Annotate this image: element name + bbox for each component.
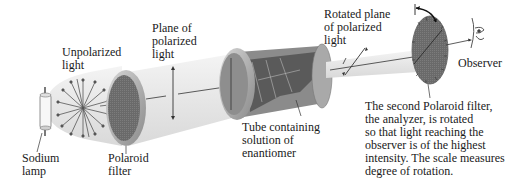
label-tube: Tube containing solution of enantiomer (242, 121, 320, 160)
outgoing-light (446, 39, 472, 46)
polarimeter-diagram: Unpolarized light Plane of polarized lig… (0, 0, 530, 192)
label-polaroid-filter: Polaroid filter (108, 152, 149, 178)
label-plane-polarized-light: Plane of polarized light (152, 22, 197, 61)
analyzer-filter (412, 4, 448, 98)
label-rotated-plane: Rotated plane of polarized light (324, 8, 390, 47)
label-analyzer-caption: The second Polaroid filter, the analyzer… (365, 100, 505, 178)
label-sodium-lamp: Sodium lamp (22, 152, 59, 178)
label-unpolarized-light: Unpolarized light (62, 46, 121, 72)
rotated-beam (326, 47, 426, 78)
observer-eye-icon (471, 18, 484, 48)
sample-tube (219, 44, 332, 120)
label-observer: Observer (458, 57, 502, 70)
sodium-lamp (37, 87, 51, 152)
